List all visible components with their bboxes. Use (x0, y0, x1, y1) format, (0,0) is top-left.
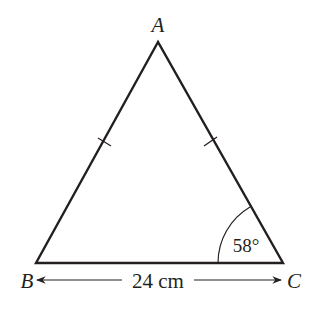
vertex-label-b: B (21, 269, 34, 293)
vertex-label-c: C (287, 269, 302, 293)
triangle-abc (36, 42, 283, 263)
base-length-label: 24 cm (132, 269, 184, 293)
vertex-label-a: A (150, 13, 165, 37)
triangle-diagram: A B C 24 cm 58° (0, 0, 323, 315)
angle-c-label: 58° (233, 235, 260, 256)
